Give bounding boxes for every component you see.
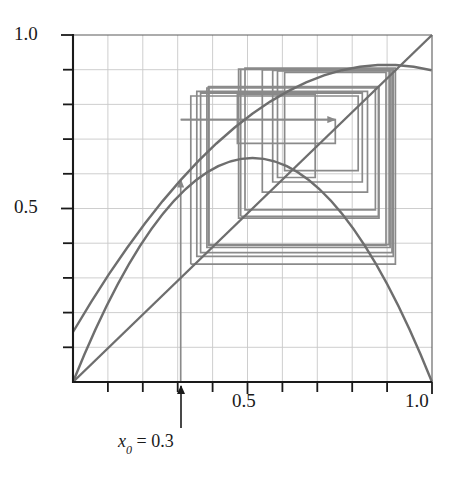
y-axis-label-0.5: 0.5 (14, 197, 38, 216)
y-axis-label-1.0: 1.0 (14, 24, 38, 43)
x-axis-ticks (108, 382, 432, 394)
x0-annotation: x0 = 0.3 (118, 432, 174, 454)
cobweb-diagram-figure: 1.0 0.5 0.5 1.0 x0 = 0.3 (0, 0, 468, 481)
x0-variable: x (118, 431, 126, 451)
x0-value: = 0.3 (137, 431, 174, 451)
y-axis-ticks (61, 35, 73, 347)
x0-subscript: 0 (126, 443, 132, 457)
x-axis-label-0.5: 0.5 (232, 391, 256, 410)
x-axis-label-1.0: 1.0 (405, 391, 429, 410)
